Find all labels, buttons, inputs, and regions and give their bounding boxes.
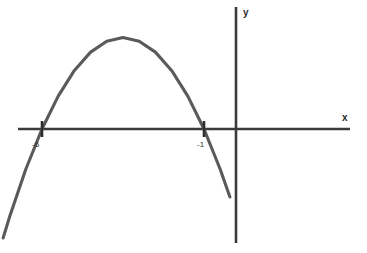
parabola-curve — [3, 38, 230, 238]
coordinate-plane-svg — [0, 0, 367, 253]
x-intercept-label-left: -6 — [32, 141, 39, 149]
y-axis-label: y — [243, 8, 249, 18]
x-intercept-label-right: -1 — [197, 141, 204, 149]
parabola-graph-figure: y x -6 -1 — [0, 0, 367, 253]
x-axis-label: x — [342, 113, 348, 123]
